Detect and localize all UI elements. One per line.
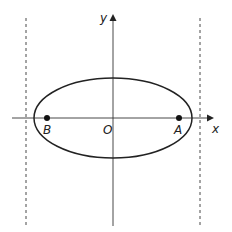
ellipse-diagram: x y B A O — [0, 0, 232, 232]
point-b-label: B — [43, 123, 51, 137]
y-axis-label: y — [99, 11, 108, 25]
x-axis-label: x — [211, 122, 220, 136]
point-b — [44, 115, 50, 121]
x-axis-arrow-icon — [207, 115, 214, 122]
y-axis-arrow-icon — [110, 14, 117, 21]
point-a-label: A — [173, 123, 182, 137]
origin-label: O — [103, 123, 112, 137]
point-a — [176, 115, 182, 121]
